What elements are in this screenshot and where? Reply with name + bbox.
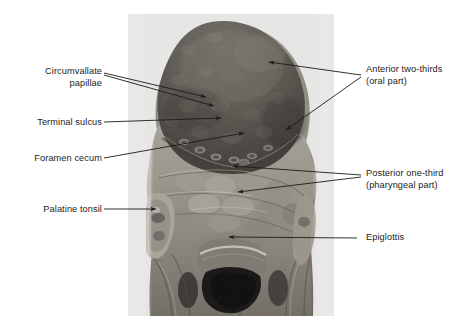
- label-terminal-sulcus: Terminal sulcus: [22, 117, 102, 129]
- leader-anterior-two-thirds-1: [269, 62, 361, 75]
- leader-epiglottis-1: [229, 237, 357, 238]
- leader-foramen-cecum-1: [104, 133, 244, 158]
- leader-anterior-two-thirds-2: [286, 77, 361, 130]
- label-epiglottis: Epiglottis: [366, 232, 426, 244]
- leader-terminal-sulcus-1: [104, 118, 221, 122]
- leader-circumvallate-papillae-1: [104, 73, 206, 97]
- leader-posterior-one-third-1: [233, 166, 361, 175]
- label-palatine-tonsil: Palatine tonsil: [28, 204, 102, 216]
- leader-circumvallate-papillae-2: [104, 75, 214, 106]
- leader-posterior-one-third-2: [238, 177, 361, 192]
- label-circumvallate-papillae: Circumvallate papillae: [30, 66, 102, 89]
- label-foramen-cecum: Foramen cecum: [20, 153, 102, 165]
- label-anterior-two-thirds: Anterior two-thirds (oral part): [366, 64, 466, 87]
- label-posterior-one-third: Posterior one-third (pharyngeal part): [366, 168, 466, 191]
- anatomy-figure: Circumvallate papillae Terminal sulcus F…: [0, 0, 469, 316]
